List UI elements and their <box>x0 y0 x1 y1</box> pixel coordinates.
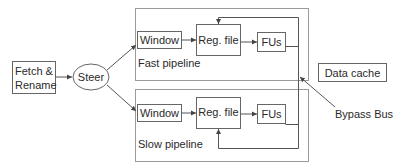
slow-regfile-block: Reg. file <box>197 98 241 129</box>
slow-fus-block: FUs <box>258 105 286 124</box>
fast-fus-label: FUs <box>261 36 282 48</box>
slow-window-label: Window <box>140 107 179 119</box>
fast-window-block: Window <box>138 32 182 49</box>
slow-pipeline-label: Slow pipeline <box>138 138 203 150</box>
fast-pipeline-label: Fast pipeline <box>138 57 200 69</box>
pipeline-diagram: Fetch & Rename Steer Window Reg. file FU… <box>0 0 397 167</box>
steer-to-slow-arrow <box>107 85 136 111</box>
fast-regfile-label: Reg. file <box>198 34 238 46</box>
slow-window-block: Window <box>138 105 182 122</box>
fast-fus-block: FUs <box>258 33 286 52</box>
fetch-rename-line1: Fetch & <box>15 65 54 77</box>
fetch-rename-line2: Rename <box>15 79 57 91</box>
steer-to-fast-arrow <box>107 45 136 70</box>
steer-node: Steer <box>73 64 109 90</box>
fetch-rename-block: Fetch & Rename <box>13 62 57 94</box>
fast-window-label: Window <box>140 34 179 46</box>
steer-label: Steer <box>78 71 105 83</box>
data-cache-block: Data cache <box>319 64 387 82</box>
slow-regfile-label: Reg. file <box>198 106 238 118</box>
slow-fus-label: FUs <box>261 108 282 120</box>
fast-regfile-block: Reg. file <box>197 25 241 56</box>
bypass-bus-label: Bypass Bus <box>335 108 394 120</box>
data-cache-label: Data cache <box>325 67 381 79</box>
